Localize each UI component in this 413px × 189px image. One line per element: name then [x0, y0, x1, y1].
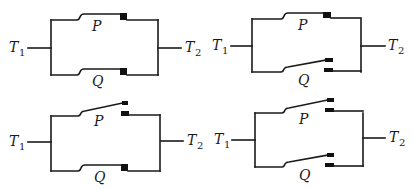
label-p: P [91, 18, 102, 34]
switch-p-open [51, 101, 160, 116]
label-p: P [298, 111, 309, 127]
circuit-2: P Q T 1 T 2 [212, 12, 404, 88]
label-p: P [93, 113, 104, 129]
label-t2-sub: 2 [398, 45, 404, 56]
label-t1-sub: 1 [224, 139, 230, 150]
circuit-1: P Q T 1 T 2 [9, 13, 201, 89]
label-t1-sub: 1 [222, 45, 228, 56]
circuit-4: P Q T 1 T 2 [214, 98, 405, 183]
switch-p-open [255, 98, 363, 113]
label-q: Q [299, 167, 311, 183]
label-p: P [297, 17, 308, 33]
circuit-3: P Q T 1 T 2 [9, 101, 203, 185]
label-t1-sub: 1 [19, 47, 25, 58]
label-t2-sub: 2 [195, 47, 201, 58]
label-q: Q [94, 169, 106, 185]
switch-q-open [252, 58, 361, 72]
switch-q-open [255, 153, 363, 167]
switch-q-closed [51, 68, 158, 75]
label-t2-sub: 2 [399, 137, 405, 148]
switch-p-closed [51, 13, 158, 20]
label-t2-sub: 2 [197, 140, 203, 151]
switch-q-closed [51, 164, 160, 171]
switch-circuits-figure: P Q T 1 T 2 P Q T 1 T 2 [0, 0, 413, 189]
label-q: Q [298, 72, 310, 88]
label-t1-sub: 1 [19, 141, 25, 152]
label-q: Q [92, 73, 104, 89]
